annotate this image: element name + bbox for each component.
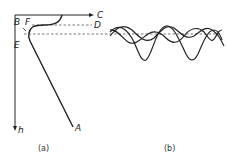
wave-1: [110, 26, 222, 60]
panel-a: B F E C D A h (a): [13, 10, 222, 153]
label-f: F: [25, 17, 31, 27]
label-h: h: [18, 125, 24, 135]
panel-b: (b): [110, 26, 224, 153]
label-e: E: [14, 40, 20, 50]
tick-mark: [23, 28, 26, 31]
arrow-right-icon: [89, 13, 94, 17]
label-b: B: [14, 17, 20, 27]
caption-a: (a): [38, 144, 49, 153]
caption-b: (b): [164, 144, 175, 153]
label-c: C: [97, 10, 104, 20]
label-d: D: [94, 20, 101, 30]
label-a: A: [74, 123, 81, 133]
profile-curve: [29, 15, 73, 127]
figure-canvas: B F E C D A h (a) (b): [0, 0, 227, 158]
arrow-down-icon: [13, 126, 17, 131]
